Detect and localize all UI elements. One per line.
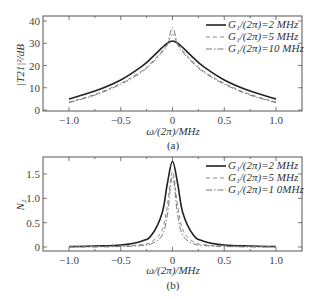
panel-b-caption: (b) (167, 279, 180, 292)
y-tick-label: 10 (29, 82, 41, 94)
x-tick-label: −1.0 (59, 254, 79, 266)
panel-a-ylabel: |T21|²/dB (14, 44, 26, 86)
x-tick-label: −1.0 (59, 114, 79, 126)
panel-b-legend: G₁/(2π)=2 MHzG₁/(2π)=5 MHzG₁/(2π)=1 0MHz (206, 159, 304, 196)
x-tick-label: −0.5 (111, 254, 131, 266)
panel-a-legend: G₁/(2π)=2 MHzG₁/(2π)=5 MHzG₁/(2π)=10 MHz (206, 18, 304, 55)
panel-b-ylabel: N₂ (14, 199, 26, 211)
y-tick-label: 30 (29, 37, 41, 49)
panel-b-chart: −1.0−0.500.51.000.51.01.5 G₁/(2π)=2 MHzG… (14, 157, 304, 292)
x-tick-label: −0.5 (111, 114, 131, 126)
y-tick-label: 1.5 (26, 168, 40, 180)
y-tick-label: 0 (35, 104, 41, 116)
legend-label: G₁/(2π)=10 MHz (228, 42, 304, 55)
x-tick-label: 1.0 (269, 254, 283, 266)
x-tick-label: 0.5 (217, 254, 231, 266)
y-tick-label: 0.5 (26, 217, 40, 229)
y-tick-label: 0 (35, 241, 41, 253)
panel-a-caption: (a) (167, 139, 180, 152)
figure: −1.0−0.500.51.0010203040 G₁/(2π)=2 MHzG₁… (0, 0, 315, 299)
x-tick-label: 1.0 (269, 114, 283, 126)
y-tick-label: 1.0 (26, 192, 40, 204)
legend-label: G₁/(2π)=1 0MHz (228, 183, 304, 196)
y-tick-label: 20 (29, 60, 41, 72)
y-tick-label: 40 (29, 15, 41, 27)
panel-a-chart: −1.0−0.500.51.0010203040 G₁/(2π)=2 MHzG₁… (14, 15, 304, 152)
panel-b-xlabel: ω/(2π)/MHz (146, 264, 200, 277)
x-tick-label: 0.5 (217, 114, 231, 126)
panel-a-xlabel: ω/(2π)/MHz (146, 125, 200, 138)
